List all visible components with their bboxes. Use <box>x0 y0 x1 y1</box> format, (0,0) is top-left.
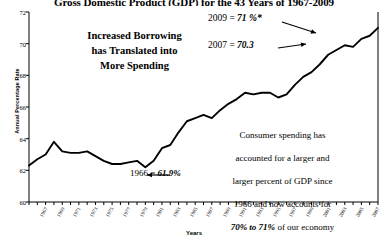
paragraph-line-3: larger percent of GDP since <box>195 176 370 188</box>
paragraph-line-4: 1966 and now accounts for <box>195 199 370 211</box>
annotation-2007: 2007 = 70.3 <box>208 40 254 50</box>
paragraph-line-5-rest: of our economy <box>275 222 334 232</box>
annotation-1966: 1966 = 61.9% <box>130 168 181 178</box>
gdp-consumer-spending-chart: Gross Domestic Product (GDP) for the 43 … <box>0 0 388 243</box>
paragraph-line-1: Consumer spending has <box>195 130 370 142</box>
annotation-paragraph: Consumer spending has accounted for a la… <box>195 118 370 243</box>
arrow-2007-leader <box>278 42 306 48</box>
annotation-2009-label: 2009 = <box>208 13 237 23</box>
arrow-2009-leader <box>282 22 316 34</box>
paragraph-line-2: accounted for a larger and <box>195 153 370 165</box>
annotation-2007-value: 70.3 <box>237 40 254 50</box>
paragraph-line-5: 70% to 71% of our economy <box>195 222 370 234</box>
annotation-1966-label: 1966 = <box>130 168 158 178</box>
annotation-2007-label: 2007 = <box>208 40 237 50</box>
paragraph-emphasis: 70% to 71% <box>231 222 276 232</box>
annotation-1966-value: 61.9% <box>158 168 181 178</box>
annotation-2009-value: 71 %* <box>237 13 262 23</box>
annotation-headline: Increased Borrowing has Translated into … <box>52 28 217 73</box>
annotation-2009: 2009 = 71 %* <box>208 13 262 23</box>
